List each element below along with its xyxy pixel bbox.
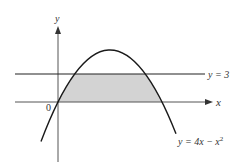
parabola-label: y = 4x − x2 xyxy=(177,135,224,147)
shaded-region xyxy=(58,74,161,102)
figure-canvas: y x 0 y = 3 y = 4x − x2 xyxy=(0,0,242,167)
y-axis-arrow-icon xyxy=(55,26,61,34)
origin-label: 0 xyxy=(46,102,51,113)
y-axis-label: y xyxy=(54,13,60,24)
x-axis-arrow-icon xyxy=(205,99,213,105)
x-axis-label: x xyxy=(215,96,221,108)
line-label: y = 3 xyxy=(207,69,229,80)
